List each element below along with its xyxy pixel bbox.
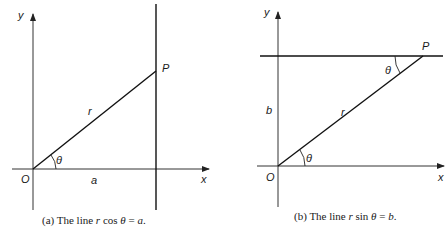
panel-a: y x O P r θ a (a) The line r cos θ = a. bbox=[12, 4, 209, 227]
angle-label-p-b: θ bbox=[385, 64, 391, 76]
polar-lines-figure: y x O P r θ a (a) The line r cos θ = a. … bbox=[0, 0, 447, 244]
point-label-b: P bbox=[422, 40, 430, 52]
height-label-b: b bbox=[266, 104, 272, 116]
angle-arc-origin-b bbox=[300, 150, 305, 166]
radius-segment-a bbox=[33, 71, 156, 169]
caption-a: (a) The line r cos θ = a. bbox=[42, 214, 146, 227]
x-axis-label-b: x bbox=[437, 171, 444, 183]
origin-label-b: O bbox=[266, 171, 275, 183]
point-label-a: P bbox=[162, 62, 170, 74]
radius-label-b: r bbox=[341, 106, 346, 118]
angle-arc-p-b bbox=[395, 56, 400, 73]
y-axis-label-b: y bbox=[263, 6, 271, 18]
angle-label-origin-b: θ bbox=[306, 152, 312, 164]
radius-label-a: r bbox=[88, 105, 93, 117]
origin-label-a: O bbox=[21, 173, 30, 185]
y-axis-label-a: y bbox=[17, 9, 25, 21]
segment-label-a: a bbox=[91, 174, 97, 186]
panel-b: y x O P r θ θ b (b) The line r sin θ = b… bbox=[257, 6, 444, 223]
angle-label-a: θ bbox=[56, 154, 62, 166]
radius-segment-b bbox=[278, 56, 423, 166]
x-axis-label-a: x bbox=[200, 173, 207, 185]
caption-b: (b) The line r sin θ = b. bbox=[294, 210, 397, 223]
